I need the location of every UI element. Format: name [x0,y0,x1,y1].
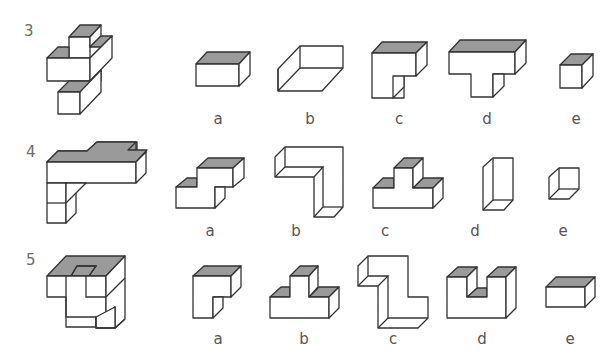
row-4-option-e-figure[interactable] [549,168,579,199]
row-number-3: 3 [24,22,34,40]
row-4-option-d-label: d [470,222,480,240]
row-4-option-c-label: c [381,222,389,240]
row-3-option-b-figure[interactable] [278,46,343,91]
row-3-option-d-figure[interactable] [449,40,526,97]
row-number-4: 4 [26,143,36,161]
row-3-option-d-label: d [482,110,492,128]
row-4-option-b-figure[interactable] [275,147,343,217]
row-3-option-c-figure[interactable] [372,42,427,98]
row-3-main-figure [47,25,112,114]
row-4-option-a-label: a [205,222,214,240]
row-number-5: 5 [26,251,36,269]
row-3-option-e-label: e [571,110,580,128]
row-3-option-a-figure[interactable] [196,52,250,86]
row-5-option-c-figure[interactable] [358,256,428,328]
row-3-option-c-label: c [395,110,403,128]
row-4-option-e-label: e [558,222,567,240]
row-5-option-a-figure[interactable] [193,266,241,318]
row-5-option-d-figure[interactable] [447,267,516,318]
row-5-option-d-label: d [477,330,487,348]
row-5-option-e-figure[interactable] [546,277,595,307]
row-3-option-a-label[interactable]: a [213,110,222,128]
puzzle-diagram: 3 a b c [0,0,615,363]
row-5-main-figure [47,256,125,328]
row-4-option-a-figure[interactable] [176,158,244,208]
row-5-option-b-figure[interactable] [270,266,339,318]
row-3-option-e-figure[interactable] [560,54,593,88]
row-5-option-c-label: c [389,330,397,348]
row-4-main-figure [47,142,147,223]
row-5-option-b-label: b [299,330,309,348]
row-4-option-c-figure[interactable] [373,158,443,208]
row-5-option-e-label: e [565,330,574,348]
row-5-option-a-label: a [213,330,222,348]
row-4-option-d-figure[interactable] [483,158,513,210]
row-4-option-b-label: b [291,222,301,240]
row-3-option-b-label: b [305,110,315,128]
